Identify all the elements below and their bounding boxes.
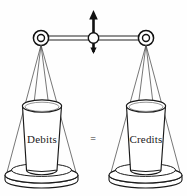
- arrow-down-head: [90, 48, 96, 55]
- right-ring-inner: [143, 35, 150, 42]
- fulcrum-circle: [88, 33, 98, 43]
- left-hanger-ring: [33, 30, 48, 45]
- left-bucket-top-rim: [22, 100, 61, 112]
- left-ring-inner: [38, 35, 45, 42]
- right-hanger-ring: [138, 30, 153, 45]
- arrow-up-head: [89, 10, 98, 20]
- equals-sign: =: [90, 133, 96, 144]
- balance-scale-svg: Debits Credits =: [0, 0, 187, 196]
- balance-scale-figure: Debits Credits =: [0, 0, 187, 196]
- right-pan-label: Credits: [129, 133, 162, 145]
- right-bucket-top-rim: [126, 100, 165, 112]
- left-pan-label: Debits: [27, 133, 57, 145]
- pivot-arrow-group: [89, 10, 98, 54]
